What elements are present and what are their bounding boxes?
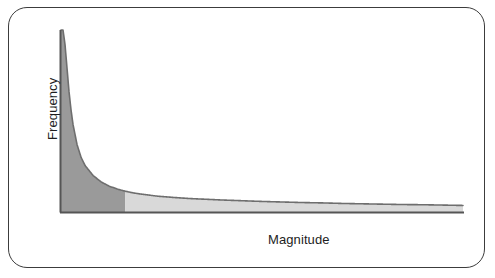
power-law-curve	[61, 30, 463, 205]
head-region-fill	[61, 30, 125, 212]
chart-plot-area	[0, 0, 495, 278]
x-axis-label: Magnitude	[268, 232, 330, 247]
figure-root: Frequency Magnitude	[0, 0, 495, 278]
y-axis-label: Frequency	[45, 78, 60, 140]
